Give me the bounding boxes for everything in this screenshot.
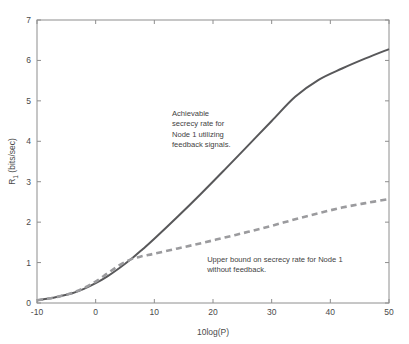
annotation-line: Upper bound on secrecy rate for Node 1 [207,255,343,264]
y-tick-label: 5 [26,96,31,106]
figure-container: -100102030405001234567 Achievablesecrecy… [0,0,409,344]
x-tick-label: 10 [150,307,160,317]
x-tick-label: 30 [267,307,277,317]
y-tick-label: 3 [26,177,31,187]
x-tick-label: -10 [31,307,44,317]
y-tick-label: 7 [26,15,31,25]
chart-background [0,0,409,344]
annotation-line: without feedback. [206,265,266,274]
x-axis-title: 10log(P) [197,327,229,337]
x-tick-label: 40 [326,307,336,317]
y-tick-label: 4 [26,136,31,146]
chart-canvas: -100102030405001234567 Achievablesecrecy… [0,0,409,344]
annotation-line: Achievable [172,109,209,118]
y-tick-label: 6 [26,55,31,65]
x-tick-label: 50 [384,307,394,317]
x-tick-label: 20 [208,307,218,317]
y-tick-label: 1 [26,258,31,268]
annotation-line: secrecy rate for [172,119,225,128]
y-tick-label: 2 [26,217,31,227]
y-tick-label: 0 [26,298,31,308]
y-axis-title-unit: (bits/sec) [7,138,17,175]
annotation-line: Node 1 utilizing [172,130,224,139]
x-tick-label: 0 [93,307,98,317]
annotation-line: feedback signals. [172,140,231,149]
